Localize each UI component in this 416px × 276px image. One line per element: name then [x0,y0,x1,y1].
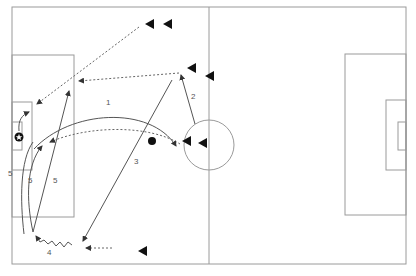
label-2: 2 [191,92,196,101]
ball-icon [148,137,156,145]
keeper-throw [19,112,29,131]
pitch-svg: 1 2 3 4 5 5 5 [0,0,416,276]
player-triangle-2 [163,19,172,29]
run-arrow-top [37,27,139,104]
label-5b: 5 [28,176,33,185]
run-arrow-curve [50,129,180,144]
step-labels: 1 2 3 4 5 5 5 [8,92,196,257]
run-5-mid [29,146,42,232]
right-goal-box [386,100,406,170]
label-3: 3 [134,157,139,166]
players [138,19,214,256]
player-triangle-6 [198,138,207,148]
tactics-diagram: 1 2 3 4 5 5 5 [0,0,416,276]
player-triangle-3 [187,63,196,73]
label-4: 4 [47,248,52,257]
player-triangle-7 [138,246,147,256]
right-goal [398,122,406,150]
run-5-left [22,142,33,234]
player-triangle-5 [182,136,191,146]
label-1: 1 [106,98,111,107]
player-triangle-1 [145,19,154,29]
dashed-runs [37,27,180,248]
pitch-markings [12,7,406,264]
dribble-4-wavy [36,236,72,247]
star-ball-icon [15,133,24,142]
run-5-right [33,91,69,232]
label-5a: 5 [8,169,13,178]
label-5c: 5 [53,176,58,185]
pass-3-line [83,80,172,241]
right-penalty-box [345,54,406,215]
run-arrow-mid [79,73,179,81]
